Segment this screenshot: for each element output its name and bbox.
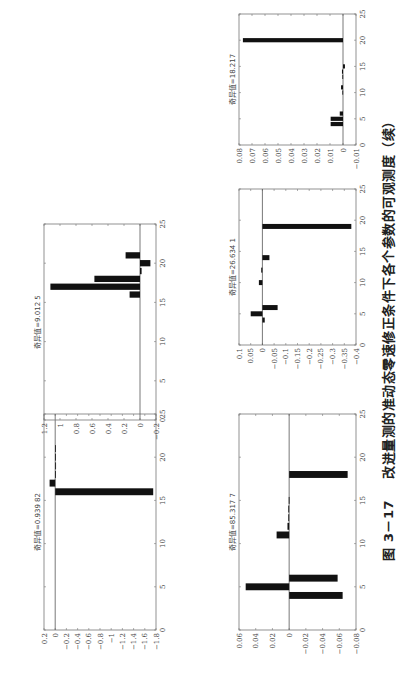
svg-text:20: 20 bbox=[359, 453, 367, 462]
bar bbox=[340, 111, 343, 115]
axis-ticks: 0.080.070.060.050.040.030.020.010−0.0105… bbox=[236, 10, 368, 170]
svg-text:0: 0 bbox=[137, 423, 145, 427]
bar bbox=[331, 122, 343, 126]
bar bbox=[342, 91, 343, 95]
bar bbox=[262, 224, 351, 229]
svg-text:5: 5 bbox=[159, 585, 167, 589]
svg-text:10: 10 bbox=[359, 539, 367, 548]
bar bbox=[55, 454, 56, 461]
bar-chart: 奇异值=26.634 10.10.050−0.05−0.1−0.15−0.2−0… bbox=[225, 185, 370, 375]
svg-text:0.2: 0.2 bbox=[121, 423, 129, 434]
svg-text:1: 1 bbox=[57, 423, 65, 427]
svg-text:−0.35: −0.35 bbox=[341, 348, 349, 369]
svg-text:−0.4: −0.4 bbox=[353, 347, 361, 365]
svg-text:0: 0 bbox=[159, 628, 167, 632]
svg-text:−0.25: −0.25 bbox=[317, 348, 325, 369]
svg-text:0: 0 bbox=[159, 418, 167, 422]
subplot-singular-value-26-6341: 奇异值=26.634 10.10.050−0.05−0.1−0.15−0.2−0… bbox=[225, 185, 370, 375]
svg-text:0: 0 bbox=[359, 343, 367, 347]
subplot-title: 奇异值=18.217 bbox=[228, 54, 237, 105]
svg-text:−0.2: −0.2 bbox=[306, 348, 314, 365]
svg-text:0.4: 0.4 bbox=[105, 422, 113, 434]
axis-ticks: 0.10.050−0.05−0.1−0.15−0.2−0.25−0.3−0.35… bbox=[236, 185, 368, 370]
rotated-figure-page: 奇异值=0.939 820.20−0.2−0.4−0.6−0.8−1−1.2−1… bbox=[0, 0, 408, 675]
bar bbox=[342, 70, 343, 74]
bar bbox=[140, 260, 150, 266]
subplot-singular-value-18-217: 奇异值=18.2170.080.070.060.050.040.030.020.… bbox=[225, 10, 370, 175]
subplot-title: 奇异值=0.939 82 bbox=[33, 493, 42, 551]
svg-text:−0.3: −0.3 bbox=[329, 348, 337, 365]
svg-text:−0.01: −0.01 bbox=[353, 148, 361, 169]
svg-text:20: 20 bbox=[359, 36, 367, 45]
svg-text:−0.6: −0.6 bbox=[85, 632, 93, 650]
bar bbox=[262, 255, 269, 260]
subplot-singular-value-9-0125: 奇异值=9.012 51.210.80.60.40.20−0.205101520… bbox=[30, 220, 170, 450]
axis-ticks: 1.210.80.60.40.20−0.20510152025 bbox=[41, 220, 168, 440]
svg-text:5: 5 bbox=[359, 585, 367, 589]
figure-caption-text: 改进量测的准动态零速修正条件下各个参数的可观测度（续） bbox=[381, 114, 396, 479]
bar bbox=[288, 506, 289, 513]
svg-text:0.2: 0.2 bbox=[41, 633, 49, 644]
svg-text:0.08: 0.08 bbox=[236, 148, 244, 164]
svg-text:−1.2: −1.2 bbox=[119, 633, 127, 650]
svg-text:15: 15 bbox=[359, 62, 367, 71]
bar bbox=[262, 318, 264, 323]
svg-text:−1.8: −1.8 bbox=[153, 633, 161, 650]
svg-text:−1.4: −1.4 bbox=[130, 632, 138, 650]
bar bbox=[342, 75, 343, 79]
bar bbox=[288, 514, 289, 521]
svg-text:0.02: 0.02 bbox=[269, 633, 277, 649]
svg-text:15: 15 bbox=[359, 247, 367, 256]
svg-text:−0.08: −0.08 bbox=[353, 633, 361, 654]
svg-text:25: 25 bbox=[359, 410, 367, 419]
bar-chart: 奇异值=18.2170.080.070.060.050.040.030.020.… bbox=[225, 10, 370, 175]
svg-text:−0.05: −0.05 bbox=[271, 348, 279, 369]
svg-text:5: 5 bbox=[359, 117, 367, 121]
svg-text:25: 25 bbox=[359, 10, 367, 19]
svg-text:10: 10 bbox=[159, 337, 167, 346]
svg-text:15: 15 bbox=[159, 298, 167, 307]
bar bbox=[243, 38, 343, 42]
svg-text:1.2: 1.2 bbox=[41, 423, 49, 434]
bar bbox=[277, 532, 290, 539]
svg-text:−0.2: −0.2 bbox=[63, 633, 71, 650]
bar bbox=[50, 284, 140, 290]
svg-text:0.1: 0.1 bbox=[236, 348, 244, 359]
bar bbox=[55, 488, 153, 495]
svg-text:−0.02: −0.02 bbox=[302, 633, 310, 654]
bar bbox=[94, 276, 140, 282]
svg-text:0: 0 bbox=[286, 633, 294, 637]
svg-text:0.05: 0.05 bbox=[275, 148, 283, 164]
figure-number: 图 3－17 bbox=[381, 500, 396, 561]
svg-text:−0.15: −0.15 bbox=[294, 348, 302, 369]
svg-text:25: 25 bbox=[159, 220, 167, 229]
bar bbox=[261, 268, 262, 273]
bar bbox=[289, 575, 337, 582]
bar bbox=[246, 583, 289, 590]
svg-text:0.07: 0.07 bbox=[249, 148, 257, 164]
bar bbox=[140, 268, 142, 274]
svg-text:0: 0 bbox=[359, 143, 367, 147]
svg-text:0: 0 bbox=[52, 633, 60, 637]
svg-text:0: 0 bbox=[340, 148, 348, 152]
subplot-singular-value-85-3177: 奇异值=85.317 70.060.040.020−0.02−0.04−0.06… bbox=[225, 410, 370, 660]
bar bbox=[55, 471, 56, 478]
bar-chart: 奇异值=85.317 70.060.040.020−0.02−0.04−0.06… bbox=[225, 410, 370, 660]
svg-text:0.02: 0.02 bbox=[314, 148, 322, 164]
subplot-title: 奇异值=85.317 7 bbox=[228, 493, 237, 551]
bar bbox=[341, 85, 343, 89]
axes-frame bbox=[239, 189, 356, 345]
bar bbox=[262, 305, 277, 310]
subplot-title: 奇异值=26.634 1 bbox=[228, 238, 237, 296]
svg-text:−0.1: −0.1 bbox=[282, 348, 290, 365]
svg-text:25: 25 bbox=[359, 185, 367, 194]
svg-text:10: 10 bbox=[359, 278, 367, 287]
svg-text:−1: −1 bbox=[108, 633, 116, 643]
svg-text:5: 5 bbox=[159, 379, 167, 383]
bar-chart: 奇异值=9.012 51.210.80.60.40.20−0.205101520… bbox=[30, 220, 170, 450]
svg-text:0: 0 bbox=[359, 628, 367, 632]
svg-text:0.03: 0.03 bbox=[301, 148, 309, 164]
svg-text:10: 10 bbox=[159, 539, 167, 548]
bar bbox=[289, 592, 342, 599]
bar bbox=[287, 523, 289, 530]
